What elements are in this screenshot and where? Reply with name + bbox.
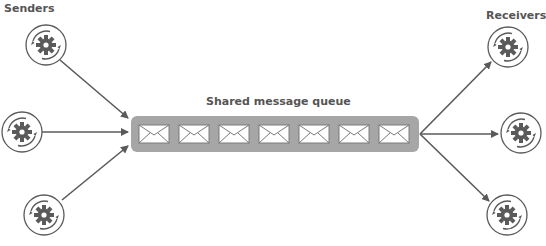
envelope-icon [139,125,169,143]
arrow-receiver-1 [420,62,491,134]
envelope-icon [299,125,329,143]
sender-1-gear-icon [26,25,66,65]
arrow-sender-1 [60,60,128,118]
envelope-icon [219,125,249,143]
arrow-sender-3 [62,146,128,200]
arrow-receiver-3 [420,134,489,201]
sender-2-gear-icon [2,112,42,152]
message-queue-diagram [0,0,546,246]
sender-3-gear-icon [24,195,64,235]
receiver-3-gear-icon [487,195,527,235]
queue-messages [139,125,409,143]
receiver-2-gear-icon [501,113,541,153]
receiver-1-gear-icon [488,27,528,67]
envelope-icon [379,125,409,143]
envelope-icon [259,125,289,143]
envelope-icon [179,125,209,143]
envelope-icon [339,125,369,143]
